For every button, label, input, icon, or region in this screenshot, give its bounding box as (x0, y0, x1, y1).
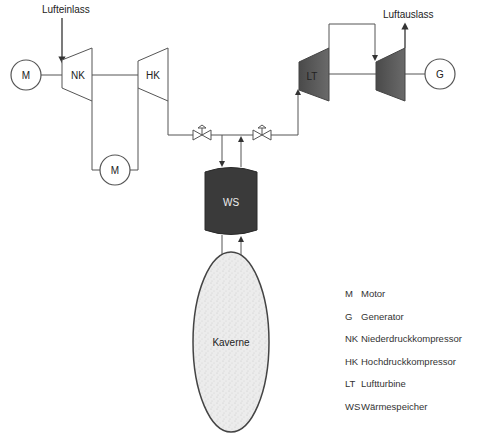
nk-motor-line (92, 101, 100, 170)
nk-label: NK (71, 70, 85, 81)
ws-label: WS (223, 197, 239, 208)
valve-right (253, 125, 271, 140)
air-inlet-label: Lufteinlass (42, 4, 90, 15)
legend-item: WSWärmespeicher (345, 401, 462, 424)
legend: MMotor GGenerator NKNiederdruckkompresso… (345, 288, 462, 424)
legend-item: MMotor (345, 288, 462, 311)
hk-label: HK (146, 70, 160, 81)
legend-item: NKNiederdruckkompressor (345, 333, 462, 356)
generator-label: G (436, 69, 444, 80)
turbine-stage-2 (376, 48, 405, 101)
motor-left-label: M (22, 70, 30, 81)
motor-hk-line (130, 88, 138, 170)
legend-item: LTLuftturbine (345, 378, 462, 401)
legend-item: GGenerator (345, 311, 462, 334)
lt-crossover-pipe (329, 24, 375, 58)
lt-label: LT (307, 71, 318, 82)
cavern-label: Kaverne (212, 337, 250, 348)
air-outlet-label: Luftauslass (383, 9, 434, 20)
lt-inlet-pipe (271, 92, 298, 135)
hk-outlet-pipe (168, 101, 193, 135)
motor-bottom-label: M (111, 165, 119, 176)
legend-item: HKHochdruckkompressor (345, 356, 462, 379)
valve-left (193, 125, 211, 140)
